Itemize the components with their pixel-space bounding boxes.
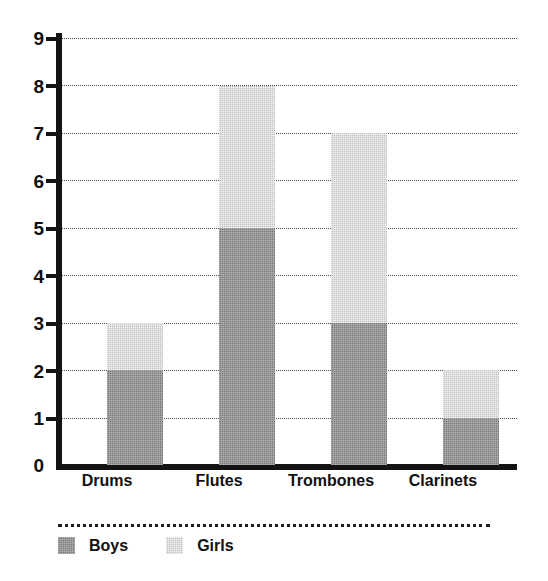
y-axis-labels: 9 8 7 6 5 4 3 2 1 0 [0,0,44,581]
legend-label-boys: Boys [89,538,128,554]
legend-swatch-girls [166,537,183,554]
legend-item-girls: Girls [166,537,233,554]
legend-swatch-boys [58,537,75,554]
y-axis-label-2: 2 [18,362,44,381]
bar-segment-clarinets-girls [443,370,499,417]
x-axis-label-flutes: Flutes [154,472,284,490]
bar-drums [107,323,163,465]
bar-trombones [331,133,387,465]
bar-flutes [219,86,275,465]
legend: Boys Girls [58,537,272,554]
plot-area [62,38,517,465]
gridline-6 [62,180,517,181]
bar-segment-flutes-girls [219,86,275,228]
y-axis-label-4: 4 [18,267,44,286]
legend-item-boys: Boys [58,537,128,554]
x-axis-label-trombones: Trombones [266,472,396,490]
bar-clarinets [443,370,499,465]
bar-segment-drums-boys [107,370,163,465]
bar-segment-clarinets-boys [443,418,499,465]
legend-divider [58,524,490,527]
legend-label-girls: Girls [197,538,233,554]
y-axis-label-8: 8 [18,77,44,96]
bar-segment-trombones-boys [331,323,387,465]
x-axis-label-drums: Drums [42,472,172,490]
gridline-4 [62,275,517,276]
gridline-7 [62,133,517,134]
y-axis-label-1: 1 [18,409,44,428]
gridline-8 [62,85,517,86]
y-axis-label-0: 0 [18,456,44,475]
y-axis-label-7: 7 [18,124,44,143]
y-axis-label-6: 6 [18,172,44,191]
gridline-5 [62,228,517,229]
stacked-bar-chart: 9 8 7 6 5 4 3 2 1 0 [0,0,548,581]
x-axis-label-clarinets: Clarinets [378,472,508,490]
y-axis-label-3: 3 [18,314,44,333]
bar-segment-flutes-boys [219,228,275,465]
gridline-9 [62,38,517,39]
bar-segment-trombones-girls [331,133,387,323]
bar-segment-drums-girls [107,323,163,370]
y-axis-label-9: 9 [18,29,44,48]
y-axis-label-5: 5 [18,219,44,238]
